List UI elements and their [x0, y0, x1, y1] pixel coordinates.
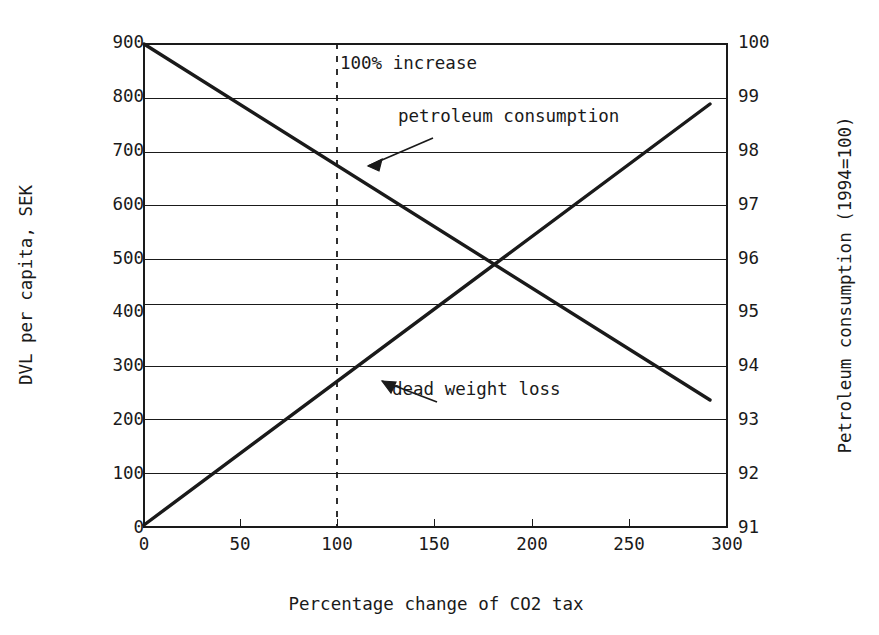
chart-figure: 900 800 700 600 500 400 300 200 100 0 10… [0, 0, 879, 635]
xtick-label-0: 0 [139, 536, 150, 554]
xtick-label-100: 100 [321, 536, 353, 554]
ytick-right-93: 93 [738, 411, 798, 429]
gridline-300 [145, 419, 726, 420]
gridline-600 [145, 259, 726, 260]
ytick-left-100: 100 [74, 465, 144, 483]
ytick-left-700: 700 [74, 142, 144, 160]
gridline-200 [145, 473, 726, 474]
ytick-right-98: 98 [738, 142, 798, 160]
gridline-800 [145, 152, 726, 153]
ytick-left-500: 500 [74, 250, 144, 268]
xtick-label-300: 300 [711, 536, 743, 554]
ytick-left-800: 800 [74, 88, 144, 106]
gridline-500 [145, 304, 726, 305]
ytick-left-0: 0 [74, 519, 144, 537]
annotation-petroleum-consumption: petroleum consumption [398, 108, 619, 126]
ytick-right-97: 97 [738, 196, 798, 214]
ytick-left-200: 200 [74, 411, 144, 429]
gridline-100 [145, 526, 726, 527]
y-axis-right-title: Petroleum consumption (1994=100) [835, 116, 855, 453]
xtick-mark-250 [629, 519, 630, 528]
annotation-dead-weight-loss: dead weight loss [392, 381, 561, 399]
xtick-label-200: 200 [516, 536, 548, 554]
ytick-right-99: 99 [738, 88, 798, 106]
xtick-mark-50 [240, 519, 241, 528]
ytick-left-900: 900 [74, 34, 144, 52]
xtick-mark-100 [337, 519, 338, 528]
ytick-right-94: 94 [738, 358, 798, 376]
ytick-left-300: 300 [74, 358, 144, 376]
y-axis-left-title: DVL per capita, SEK [16, 185, 36, 385]
ytick-right-96: 96 [738, 250, 798, 268]
x-axis-title: Percentage change of CO2 tax [288, 594, 583, 614]
ytick-right-91: 91 [738, 519, 798, 537]
gridline-400 [145, 366, 726, 367]
ytick-left-400: 400 [74, 304, 144, 322]
annotation-100-percent-increase: 100% increase [340, 55, 477, 73]
xtick-label-250: 250 [613, 536, 645, 554]
ytick-right-92: 92 [738, 465, 798, 483]
gridline-100-right [145, 98, 726, 99]
ytick-right-95: 95 [738, 304, 798, 322]
ytick-left-600: 600 [74, 196, 144, 214]
xtick-mark-200 [532, 519, 533, 528]
gridline-700 [145, 205, 726, 206]
xtick-label-50: 50 [229, 536, 250, 554]
xtick-label-150: 150 [418, 536, 450, 554]
ytick-right-100: 100 [738, 34, 798, 52]
xtick-mark-150 [434, 519, 435, 528]
